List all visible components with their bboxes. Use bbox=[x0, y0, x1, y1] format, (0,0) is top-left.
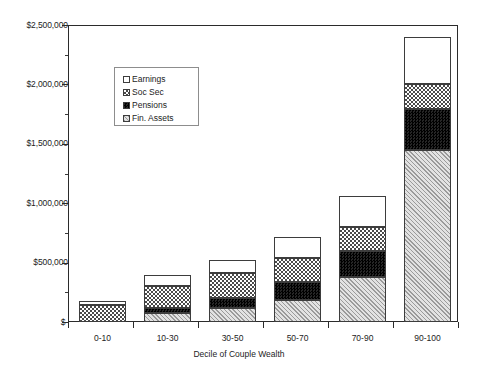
x-tick-2 bbox=[198, 322, 199, 328]
bar-segment-soc-sec bbox=[209, 273, 256, 298]
bar-segment-earnings bbox=[274, 237, 321, 258]
x-tick-1 bbox=[133, 322, 134, 328]
x-tick-5 bbox=[393, 322, 394, 328]
x-tick-0 bbox=[68, 322, 69, 328]
legend-item-pensions: Pensions bbox=[123, 99, 198, 112]
bar-group-10-30 bbox=[144, 275, 191, 322]
y-axis-label-0: $- bbox=[6, 318, 68, 327]
legend: Earnings Soc Sec Pensions Fin. Assets bbox=[114, 67, 199, 126]
bar-segment-soc-sec bbox=[274, 258, 321, 282]
bar-group-0-10 bbox=[79, 301, 126, 322]
bar-segment-earnings bbox=[144, 275, 191, 286]
legend-label-soc-sec: Soc Sec bbox=[132, 88, 164, 97]
legend-item-soc-sec: Soc Sec bbox=[123, 86, 198, 99]
bar-segment-soc-sec bbox=[79, 305, 126, 322]
bar-segment-pensions bbox=[209, 298, 256, 308]
bar-segment-earnings bbox=[209, 260, 256, 273]
white-swatch-icon bbox=[123, 76, 130, 83]
bar-group-50-70 bbox=[274, 237, 321, 322]
checker-swatch-icon bbox=[123, 89, 130, 96]
bar-group-90-100 bbox=[404, 37, 451, 322]
y-axis-label-2500000: $2,500,000 bbox=[6, 21, 68, 30]
x-axis-label-50-70: 50-70 bbox=[263, 333, 333, 343]
bar-segment-fin-assets bbox=[339, 277, 386, 322]
bar-segment-fin-assets bbox=[274, 300, 321, 322]
bar-segment-soc-sec bbox=[404, 84, 451, 109]
x-axis-label-0-10: 0-10 bbox=[68, 333, 138, 343]
hatch-swatch-icon bbox=[123, 115, 130, 122]
y-axis-label-500000: $500,000 bbox=[6, 258, 68, 267]
bar-segment-fin-assets bbox=[209, 308, 256, 322]
x-tick-4 bbox=[328, 322, 329, 328]
bar-segment-soc-sec bbox=[144, 286, 191, 308]
y-axis-label-1000000: $1,000,000 bbox=[6, 199, 68, 208]
legend-item-earnings: Earnings bbox=[123, 73, 198, 86]
bar-segment-soc-sec bbox=[339, 227, 386, 251]
x-tick-3 bbox=[263, 322, 264, 328]
x-axis-label-30-50: 30-50 bbox=[198, 333, 268, 343]
bar-segment-earnings bbox=[404, 37, 451, 84]
bar-segment-fin-assets bbox=[144, 313, 191, 322]
bar-segment-pensions bbox=[339, 251, 386, 277]
y-axis: $2,500,000 $2,000,000 $1,500,000 $1,000,… bbox=[0, 0, 68, 377]
legend-label-pensions: Pensions bbox=[132, 101, 167, 110]
x-axis-label-70-90: 70-90 bbox=[328, 333, 398, 343]
bar-segment-earnings bbox=[339, 196, 386, 227]
y-axis-label-2000000: $2,000,000 bbox=[6, 80, 68, 89]
stacked-bar-chart: $2,500,000 $2,000,000 $1,500,000 $1,000,… bbox=[0, 0, 478, 377]
legend-label-earnings: Earnings bbox=[132, 75, 166, 84]
x-axis-title: Decile of Couple Wealth bbox=[0, 349, 478, 359]
y-axis-label-1500000: $1,500,000 bbox=[6, 139, 68, 148]
bar-group-30-50 bbox=[209, 260, 256, 322]
bar-segment-fin-assets bbox=[404, 150, 451, 322]
bar-group-70-90 bbox=[339, 196, 386, 322]
bar-segment-pensions bbox=[404, 109, 451, 150]
x-axis-label-90-100: 90-100 bbox=[393, 333, 463, 343]
black-swatch-icon bbox=[123, 102, 130, 109]
x-axis-label-10-30: 10-30 bbox=[133, 333, 203, 343]
x-tick-6 bbox=[458, 322, 459, 328]
legend-label-fin-assets: Fin. Assets bbox=[132, 114, 174, 123]
legend-item-fin-assets: Fin. Assets bbox=[123, 112, 198, 125]
bar-segment-pensions bbox=[274, 282, 321, 300]
